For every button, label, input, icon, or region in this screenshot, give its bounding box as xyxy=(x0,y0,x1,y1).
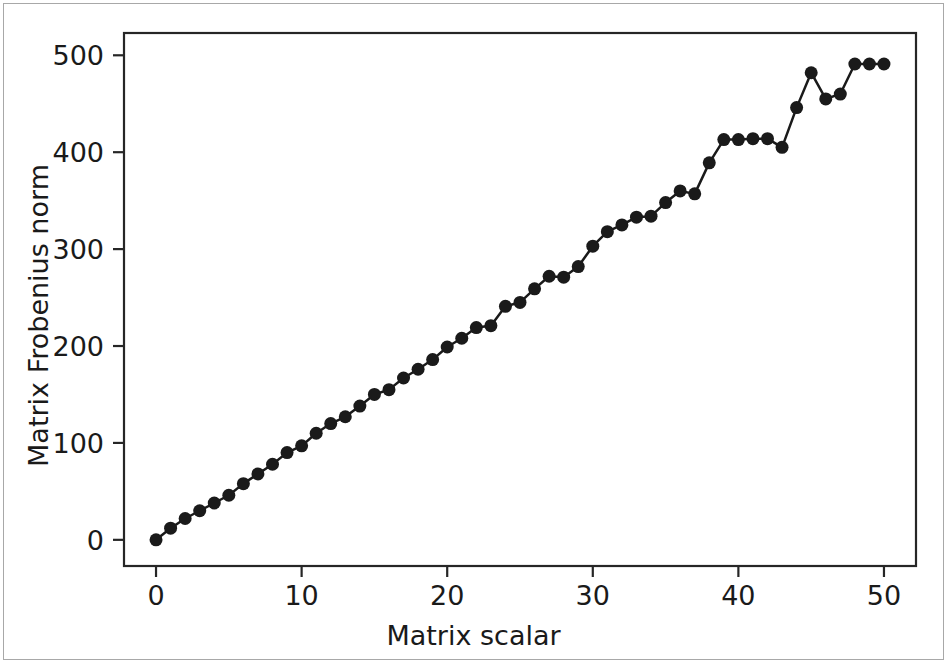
x-tick-label: 40 xyxy=(721,582,755,609)
data-point-marker xyxy=(353,400,366,413)
data-point-marker xyxy=(368,388,381,401)
data-point-marker xyxy=(674,184,687,197)
x-tick-label: 10 xyxy=(284,582,318,609)
data-point-marker xyxy=(645,210,658,223)
x-axis-label: Matrix scalar xyxy=(0,620,947,651)
y-axis-label-wrapper: Matrix Frobenius norm xyxy=(23,46,54,586)
plot-canvas xyxy=(0,0,947,663)
data-point-marker xyxy=(397,372,410,385)
x-tick-label: 30 xyxy=(576,582,610,609)
data-point-marker xyxy=(266,458,279,471)
data-point-marker xyxy=(630,211,643,224)
data-point-marker xyxy=(193,504,206,517)
data-point-marker xyxy=(703,156,716,169)
data-point-marker xyxy=(310,427,323,440)
data-point-marker xyxy=(208,497,221,510)
data-point-marker xyxy=(514,296,527,309)
data-point-marker xyxy=(746,132,759,145)
data-point-marker xyxy=(455,332,468,345)
data-point-marker xyxy=(615,218,628,231)
data-point-marker xyxy=(470,321,483,334)
y-axis-label: Matrix Frobenius norm xyxy=(23,164,54,467)
data-point-marker xyxy=(848,58,861,71)
data-point-marker xyxy=(281,446,294,459)
data-point-marker xyxy=(688,187,701,200)
data-point-marker xyxy=(295,439,308,452)
x-tick-label: 50 xyxy=(867,582,901,609)
data-point-marker xyxy=(790,101,803,114)
data-point-marker xyxy=(528,282,541,295)
data-point-marker xyxy=(776,141,789,154)
data-point-marker xyxy=(484,319,497,332)
data-point-marker xyxy=(150,533,163,546)
x-tick-label: 20 xyxy=(430,582,464,609)
data-point-marker xyxy=(382,383,395,396)
data-point-marker xyxy=(499,300,512,313)
data-point-marker xyxy=(557,271,570,284)
data-point-marker xyxy=(805,66,818,79)
figure-page: 0100200300400500 01020304050 Matrix scal… xyxy=(0,0,947,663)
chart-figure: 0100200300400500 01020304050 Matrix scal… xyxy=(0,0,947,663)
data-point-marker xyxy=(586,240,599,253)
data-point-marker xyxy=(659,196,672,209)
data-point-marker xyxy=(339,410,352,423)
x-tick-label: 0 xyxy=(147,582,164,609)
data-point-marker xyxy=(732,133,745,146)
data-point-marker xyxy=(441,340,454,353)
data-point-marker xyxy=(877,58,890,71)
data-point-marker xyxy=(164,522,177,535)
data-point-marker xyxy=(237,477,250,490)
data-point-marker xyxy=(717,133,730,146)
data-point-marker xyxy=(601,225,614,238)
data-point-marker xyxy=(179,512,192,525)
data-point-marker xyxy=(834,88,847,101)
data-point-marker xyxy=(426,353,439,366)
y-axis-ticks xyxy=(113,55,124,540)
data-point-marker xyxy=(222,489,235,502)
x-axis-ticks xyxy=(156,566,884,577)
data-point-marker xyxy=(761,132,774,145)
data-point-marker xyxy=(572,260,585,273)
series-markers xyxy=(150,58,891,547)
data-point-marker xyxy=(863,58,876,71)
data-point-marker xyxy=(251,467,264,480)
data-point-marker xyxy=(412,363,425,376)
data-point-marker xyxy=(543,270,556,283)
data-point-marker xyxy=(819,92,832,105)
data-point-marker xyxy=(324,417,337,430)
